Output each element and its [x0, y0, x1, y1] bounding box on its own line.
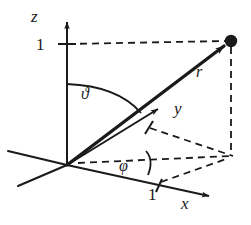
point-marker-dot [225, 35, 237, 47]
z-axis-label: z [31, 8, 38, 25]
x-axis-label: x [181, 195, 189, 212]
z-axis-tick-label: 1 [36, 36, 45, 53]
azimuth-angle-arc-phi [146, 151, 151, 175]
negative-x-axis-stub [18, 165, 67, 186]
dashed-height-line-z-to-point [68, 41, 226, 44]
polar-angle-label: ϑ [81, 86, 89, 102]
radius-vector-label: r [196, 64, 202, 80]
y-axis-tick-1 [145, 121, 153, 134]
polar-angle-arc-theta [67, 84, 141, 113]
spherical-coordinates-figure: z 1 y x 1 r ϑ φ [0, 0, 251, 225]
dashed-projection-radius-in-xy-plane [78, 156, 231, 163]
dashed-projection-from-y-axis [150, 128, 233, 156]
x-axis-tick-label: 1 [148, 186, 157, 203]
negative-y-axis-stub [8, 151, 67, 165]
dashed-projection-from-x-axis [161, 158, 229, 182]
diagram-canvas [0, 0, 251, 225]
x-axis-line [67, 165, 209, 196]
y-axis-label: y [174, 100, 182, 117]
azimuth-angle-label: φ [119, 158, 128, 174]
